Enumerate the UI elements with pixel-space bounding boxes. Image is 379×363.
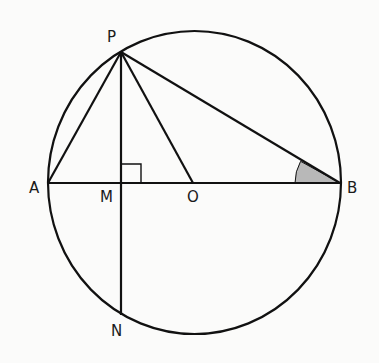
label-B: B — [347, 179, 357, 197]
label-A: A — [29, 179, 40, 197]
label-M: M — [100, 188, 113, 206]
right-angle-marker — [121, 164, 141, 183]
label-O: O — [187, 188, 199, 206]
geometry-diagram: P A M O B N — [0, 0, 379, 363]
segment-PB — [121, 52, 340, 183]
segment-PA — [48, 52, 121, 183]
label-P: P — [107, 28, 116, 46]
label-N: N — [111, 322, 122, 340]
